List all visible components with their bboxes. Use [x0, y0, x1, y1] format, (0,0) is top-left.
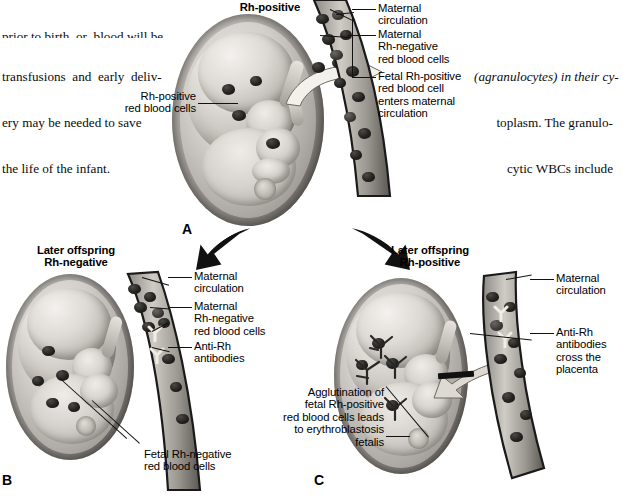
fetal-rbc-b-3	[32, 376, 44, 386]
fetal-rbc-b-1	[42, 346, 55, 356]
maternal-rbc-c-6	[514, 368, 526, 378]
maternal-rbc-c-5	[494, 354, 507, 364]
leader-c-anti-rh-cross	[530, 333, 554, 334]
panel-c-title: Later offspring Rh-positive	[370, 244, 490, 269]
maternal-rbc-b-9	[176, 414, 189, 424]
panel-b-label-anti-rh: Anti-Rh antibodies	[194, 340, 284, 365]
maternal-rbc-b-2	[144, 292, 156, 302]
panel-b-label-fetal-rbc: Fetal Rh-negative red blood cells	[144, 448, 262, 473]
fetus-ear-b	[76, 416, 96, 436]
panel-a-label-maternal-rbc: Maternal Rh-negative red blood cells	[378, 28, 488, 65]
maternal-rbc-c-7	[502, 392, 515, 403]
panel-a-title: Rh-positive	[215, 1, 325, 13]
left-text-cut-line: prior to birth, or blood will be	[2, 29, 163, 38]
right-text-cut-line	[474, 29, 613, 38]
panel-letter-c: C	[314, 473, 324, 487]
fetus-ear-c	[408, 428, 429, 449]
maternal-rbc-a-11	[350, 150, 362, 160]
panel-b-label-maternal-circulation: Maternal circulation	[194, 270, 294, 295]
maternal-rbc-c-9	[510, 432, 523, 442]
panel-a-label-fetal-rbc: Rh-positive red blood cells	[110, 90, 196, 115]
fetal-rbc-b-4	[46, 398, 59, 408]
left-text-line-2: ery may be needed to save	[2, 115, 163, 130]
leader-c-maternal-circulation	[530, 279, 554, 280]
left-text-line-1: transfusions and early deliv-	[2, 69, 163, 84]
maternal-rbc-c-1	[486, 292, 499, 302]
maternal-rbc-b-4	[152, 308, 164, 318]
maternal-rbc-a-1	[316, 14, 329, 24]
left-text-line-3: the life of the infant.	[2, 161, 163, 176]
fetal-rbc-a-2	[250, 76, 262, 86]
panel-letter-b: B	[2, 473, 12, 487]
maternal-rbc-a-10	[358, 128, 371, 139]
panel-a-label-fetal-cell-entry: Fetal Rh-positive red blood cell enters …	[378, 70, 504, 120]
maternal-rbc-a-7	[334, 78, 346, 88]
maternal-rbc-c-8	[520, 410, 532, 420]
panel-b-title: Later offspring Rh-negative	[16, 244, 136, 269]
fetal-rbc-a-1	[222, 84, 235, 95]
leader-b-anti-rh	[168, 347, 192, 348]
maternal-rbc-b-8	[170, 382, 182, 392]
fetus-ear-a	[254, 178, 276, 200]
leader-a-fetal-rbc	[198, 103, 238, 104]
right-text-line-3: cytic WBCs include	[474, 161, 613, 176]
maternal-rbc-b-3	[134, 302, 147, 313]
maternal-rbc-a-9	[344, 112, 356, 122]
fetal-rbc-b-5	[68, 402, 80, 412]
leader-b-maternal-circulation	[168, 277, 192, 278]
anti-rh-antibody-c-1	[492, 304, 510, 322]
maternal-rbc-a-12	[362, 172, 375, 182]
panel-c-label-anti-rh-cross: Anti-Rh antibodies cross the placenta	[556, 326, 623, 376]
panel-b-label-maternal-rbc: Maternal Rh-negative red blood cells	[194, 300, 304, 337]
panel-a-label-maternal-circulation: Maternal circulation	[378, 2, 478, 27]
leader-c-agglutination	[386, 436, 410, 437]
panel-c-label-agglutination: Agglutination of fetal Rh-positive red b…	[222, 386, 384, 448]
leader-a-fetal-entry-vert	[352, 14, 353, 78]
maternal-rbc-a-8	[352, 92, 365, 102]
fetal-rbc-a-3	[232, 110, 246, 121]
fetal-rbc-a-4	[266, 138, 280, 149]
maternal-rbc-a-5	[330, 50, 343, 60]
leader-a-fetal-entry	[352, 77, 376, 78]
leader-b-maternal-rbc	[168, 307, 192, 308]
leader-a-maternal-circulation	[352, 9, 376, 10]
anti-rh-antibody-c-2	[496, 330, 514, 348]
agglutination-antibody-c-3	[348, 352, 386, 390]
panel-letter-a: A	[182, 222, 192, 236]
maternal-rbc-b-1	[128, 284, 141, 294]
panel-c-label-maternal-circulation: Maternal circulation	[556, 272, 623, 297]
